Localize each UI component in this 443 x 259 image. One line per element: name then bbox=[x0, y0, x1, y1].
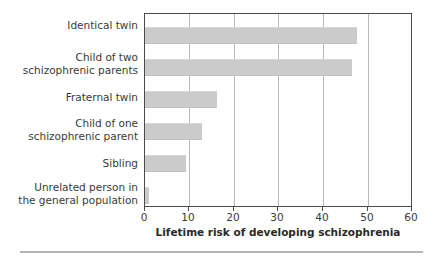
x-ticklabel-50: 50 bbox=[360, 211, 373, 224]
bar-series bbox=[145, 14, 411, 206]
bar-sibling bbox=[145, 155, 186, 172]
category-label-child-of-two-schizophrenic-parents: Child of two schizophrenic parents bbox=[0, 51, 138, 76]
x-axis-tick-labels: 0 10 20 30 40 50 60 bbox=[144, 211, 412, 225]
bar-unrelated-person bbox=[145, 187, 149, 204]
bar-row bbox=[145, 59, 411, 76]
bar-identical-twin bbox=[145, 27, 357, 44]
bar-fraternal-twin bbox=[145, 91, 217, 108]
x-ticklabel-20: 20 bbox=[226, 211, 239, 224]
x-ticklabel-60: 60 bbox=[404, 211, 417, 224]
bar-row bbox=[145, 91, 411, 108]
bar-row bbox=[145, 187, 411, 204]
x-ticklabel-10: 10 bbox=[181, 211, 194, 224]
plot-area bbox=[144, 13, 412, 207]
x-ticklabel-30: 30 bbox=[270, 211, 283, 224]
bar-row bbox=[145, 155, 411, 172]
x-axis-title: Lifetime risk of developing schizophreni… bbox=[144, 226, 412, 238]
bar-child-of-one-schizophrenic-parent bbox=[145, 123, 202, 140]
bar-row bbox=[145, 27, 411, 44]
category-label-child-of-one-schizophrenic-parent: Child of one schizophrenic parent bbox=[0, 117, 138, 142]
bar-child-of-two-schizophrenic-parents bbox=[145, 59, 352, 76]
category-label-sibling: Sibling bbox=[0, 157, 138, 170]
x-ticklabel-0: 0 bbox=[141, 211, 148, 224]
category-label-fraternal-twin: Fraternal twin bbox=[0, 91, 138, 104]
x-ticklabel-40: 40 bbox=[315, 211, 328, 224]
footer-divider bbox=[20, 251, 423, 253]
category-axis-labels: Identical twin Child of two schizophreni… bbox=[0, 13, 138, 207]
category-label-identical-twin: Identical twin bbox=[0, 19, 138, 32]
bar-row bbox=[145, 123, 411, 140]
category-label-unrelated-person: Unrelated person in the general populati… bbox=[0, 181, 138, 206]
schizophrenia-risk-chart: Identical twin Child of two schizophreni… bbox=[0, 0, 443, 259]
